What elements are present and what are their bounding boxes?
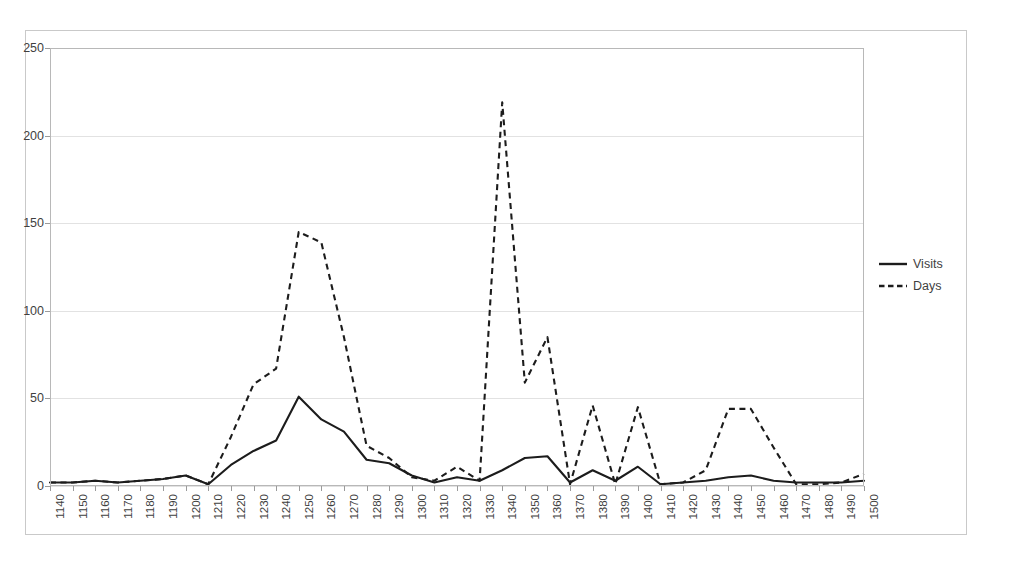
chart-legend: Visits Days: [878, 253, 964, 297]
x-tick-label: 1300: [417, 494, 429, 520]
x-tick-label: 1190: [168, 494, 180, 519]
x-tick-label: 1400: [643, 494, 655, 520]
x-tick-label: 1140: [55, 494, 67, 519]
x-tick-label: 1490: [846, 494, 858, 520]
x-tick-mark: [389, 486, 390, 491]
x-tick-label: 1280: [372, 494, 384, 520]
x-tick-mark: [796, 486, 797, 491]
x-tick-label: 1430: [711, 494, 723, 520]
y-tick-label: 0: [37, 480, 44, 493]
x-tick-mark: [480, 486, 481, 491]
x-tick-mark: [841, 486, 842, 491]
y-tick-label: 100: [23, 305, 44, 318]
x-tick-label: 1370: [575, 494, 587, 520]
x-tick-label: 1450: [756, 494, 768, 520]
x-tick-mark: [231, 486, 232, 491]
x-tick-label: 1170: [123, 494, 135, 519]
x-tick-mark: [615, 486, 616, 491]
x-tick-label: 1470: [801, 494, 813, 520]
x-tick-label: 1310: [439, 494, 451, 520]
x-tick-mark: [254, 486, 255, 491]
x-tick-label: 1320: [462, 494, 474, 520]
x-tick-label: 1230: [259, 494, 271, 520]
x-tick-label: 1200: [191, 494, 203, 520]
x-tick-mark: [457, 486, 458, 491]
x-tick-label: 1390: [620, 494, 632, 520]
x-tick-label: 1240: [281, 494, 293, 520]
legend-item-days: Days: [878, 275, 964, 297]
x-tick-label: 1270: [349, 494, 361, 520]
legend-label-visits: Visits: [913, 258, 943, 271]
chart-figure: 050100150200250 114011501160117011801190…: [25, 30, 967, 535]
x-tick-mark: [186, 486, 187, 491]
y-tick-label: 250: [23, 42, 44, 55]
x-tick-mark: [434, 486, 435, 491]
x-tick-label: 1160: [100, 494, 112, 519]
x-tick-label: 1150: [78, 494, 90, 519]
x-tick-label: 1380: [598, 494, 610, 520]
x-tick-mark: [864, 486, 865, 491]
x-tick-mark: [95, 486, 96, 491]
legend-swatch-visits: [878, 259, 908, 269]
x-tick-label: 1440: [733, 494, 745, 520]
series-line-days: [50, 102, 864, 484]
x-tick-mark: [299, 486, 300, 491]
plot-area: 050100150200250 114011501160117011801190…: [50, 48, 864, 486]
x-tick-mark: [751, 486, 752, 491]
x-tick-mark: [683, 486, 684, 491]
x-tick-mark: [412, 486, 413, 491]
x-tick-mark: [321, 486, 322, 491]
x-tick-label: 1360: [552, 494, 564, 520]
x-tick-label: 1410: [666, 494, 678, 520]
legend-label-days: Days: [913, 280, 941, 293]
x-tick-label: 1420: [688, 494, 700, 520]
x-tick-mark: [547, 486, 548, 491]
series-layer: [50, 48, 864, 486]
y-tick-label: 200: [23, 129, 44, 142]
x-tick-label: 1210: [213, 494, 225, 520]
x-tick-mark: [163, 486, 164, 491]
x-tick-mark: [50, 486, 51, 491]
x-tick-mark: [367, 486, 368, 491]
x-tick-label: 1220: [236, 494, 248, 520]
x-tick-mark: [774, 486, 775, 491]
y-tick-label: 50: [30, 392, 44, 405]
legend-swatch-days: [878, 281, 908, 291]
x-tick-mark: [525, 486, 526, 491]
x-tick-label: 1480: [824, 494, 836, 520]
x-tick-mark: [661, 486, 662, 491]
x-tick-mark: [208, 486, 209, 491]
x-tick-label: 1500: [869, 494, 881, 520]
x-tick-label: 1460: [779, 494, 791, 520]
x-tick-mark: [638, 486, 639, 491]
x-tick-label: 1340: [507, 494, 519, 520]
x-tick-mark: [706, 486, 707, 491]
x-tick-mark: [140, 486, 141, 491]
x-tick-label: 1180: [145, 494, 157, 519]
x-tick-mark: [728, 486, 729, 491]
x-tick-mark: [570, 486, 571, 491]
x-tick-mark: [344, 486, 345, 491]
x-tick-mark: [593, 486, 594, 491]
x-tick-label: 1260: [326, 494, 338, 520]
x-tick-label: 1330: [485, 494, 497, 520]
x-tick-mark: [276, 486, 277, 491]
x-tick-label: 1290: [394, 494, 406, 520]
x-tick-mark: [502, 486, 503, 491]
x-tick-mark: [819, 486, 820, 491]
legend-item-visits: Visits: [878, 253, 964, 275]
x-tick-mark: [118, 486, 119, 491]
x-tick-mark: [73, 486, 74, 491]
x-tick-label: 1350: [530, 494, 542, 520]
x-tick-label: 1250: [304, 494, 316, 520]
y-tick-label: 150: [23, 217, 44, 230]
